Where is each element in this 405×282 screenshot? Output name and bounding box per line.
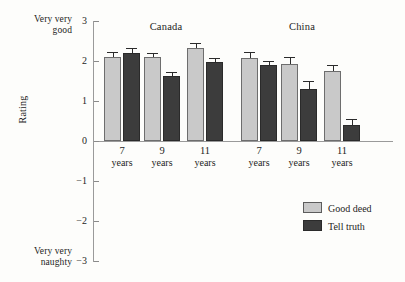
legend-swatch-tell-truth — [303, 220, 322, 231]
bar-canada-7years-tell-truth — [123, 53, 140, 141]
y-tick-label: −3 — [67, 256, 87, 266]
error-bar-cap — [284, 57, 295, 58]
x-axis-line — [93, 141, 393, 142]
error-bar-cap — [190, 43, 201, 44]
bar-canada-9years-good-deed — [144, 57, 161, 141]
error-bar-stem — [290, 57, 291, 64]
x-tick-age: 7 — [239, 145, 279, 156]
bar-china-11years-tell-truth — [343, 125, 360, 141]
bar-china-7years-tell-truth — [260, 65, 277, 141]
error-bar-cap — [346, 119, 357, 120]
bar-canada-11years-tell-truth — [206, 62, 223, 141]
legend-label-good-deed: Good deed — [328, 203, 372, 214]
legend-swatch-good-deed — [303, 202, 322, 213]
scale-anchor-low-label: Very very naughty — [4, 246, 72, 268]
x-tick-unit: years — [102, 157, 142, 168]
bar-canada-11years-good-deed — [187, 48, 204, 141]
y-tick-mark — [94, 141, 99, 142]
error-bar-cap — [126, 48, 137, 49]
x-tick-unit: years — [142, 157, 182, 168]
error-bar-cap — [263, 61, 274, 62]
error-bar-cap — [147, 53, 158, 54]
bar-china-7years-good-deed — [241, 58, 258, 141]
bar-chart-figure: Very very good Very very naughty Rating … — [0, 0, 405, 282]
error-bar-cap — [244, 52, 255, 53]
bar-china-9years-tell-truth — [300, 89, 317, 141]
y-tick-mark — [94, 101, 99, 102]
x-tick-age: 7 — [102, 145, 142, 156]
error-bar-cap — [107, 52, 118, 53]
group-title-canada: Canada — [126, 21, 206, 32]
y-tick-mark — [94, 221, 99, 222]
y-tick-label: −1 — [67, 176, 87, 186]
y-tick-label: 2 — [67, 56, 87, 66]
error-bar-stem — [309, 81, 310, 89]
y-tick-mark — [94, 61, 99, 62]
bar-canada-9years-tell-truth — [163, 76, 180, 141]
bar-china-11years-good-deed — [324, 71, 341, 141]
bar-china-9years-good-deed — [281, 64, 298, 141]
group-title-china: China — [262, 21, 342, 32]
y-tick-label: 0 — [67, 136, 87, 146]
error-bar-cap — [303, 81, 314, 82]
y-tick-mark — [94, 181, 99, 182]
x-tick-age: 9 — [279, 145, 319, 156]
x-tick-age: 11 — [185, 145, 225, 156]
y-axis-label: Rating — [17, 70, 28, 150]
scale-anchor-high-label: Very very good — [4, 14, 72, 36]
y-tick-label: 3 — [67, 16, 87, 26]
legend-label-tell-truth: Tell truth — [328, 221, 365, 232]
x-tick-age: 11 — [322, 145, 362, 156]
x-tick-unit: years — [279, 157, 319, 168]
x-tick-age: 9 — [142, 145, 182, 156]
x-tick-unit: years — [239, 157, 279, 168]
error-bar-cap — [166, 72, 177, 73]
y-tick-mark — [94, 261, 99, 262]
error-bar-cap — [209, 58, 220, 59]
y-tick-label: 1 — [67, 96, 87, 106]
bar-canada-7years-good-deed — [104, 57, 121, 141]
x-tick-unit: years — [185, 157, 225, 168]
x-tick-unit: years — [322, 157, 362, 168]
error-bar-cap — [327, 65, 338, 66]
y-tick-mark — [94, 21, 99, 22]
y-tick-label: −2 — [67, 216, 87, 226]
